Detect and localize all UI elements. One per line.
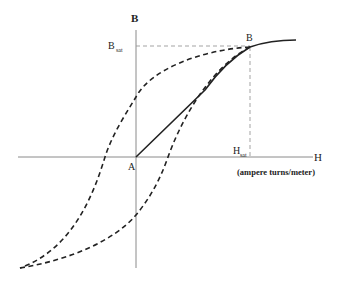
initial-magnetization-curve	[136, 47, 250, 157]
b-sat-label: B	[108, 40, 115, 51]
x-axis-label: H	[314, 151, 322, 163]
y-axis-label: B	[131, 12, 139, 24]
origin-label: A	[128, 161, 136, 172]
saturation-point-label: B	[246, 32, 253, 43]
saturation-extension-curve	[250, 40, 296, 47]
hysteresis-diagram: B H (ampere turns/meter) B sat H sat A B	[0, 0, 339, 281]
b-sat-subscript: sat	[116, 47, 123, 53]
x-units-label: (ampere turns/meter)	[237, 167, 315, 177]
h-sat-subscript: sat	[240, 152, 247, 158]
